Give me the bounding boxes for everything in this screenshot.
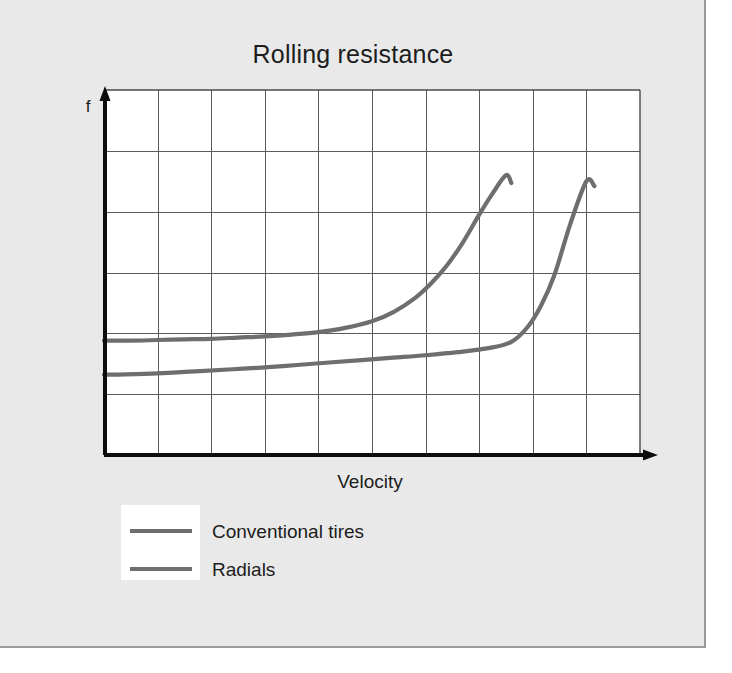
legend-label-conventional-tires: Conventional tires [212, 521, 364, 542]
x-axis-arrowhead [643, 450, 658, 461]
slide-canvas: Rolling resistance f Velocity [0, 0, 706, 648]
chart-svg: f Velocity Conventional tires Radials [0, 0, 706, 648]
chart-figure: f Velocity Conventional tires Radials [0, 0, 706, 648]
y-axis-label: f [86, 97, 91, 116]
chart-legend: Conventional tires Radials [121, 505, 364, 580]
legend-label-radials: Radials [212, 559, 275, 580]
x-axis-label: Velocity [337, 471, 403, 492]
